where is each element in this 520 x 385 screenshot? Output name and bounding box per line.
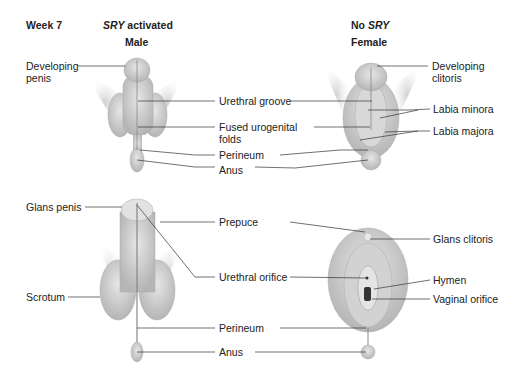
label-perineum-top: Perineum — [219, 149, 264, 161]
female-week7-illustration — [320, 60, 425, 170]
label-hymen: Hymen — [433, 274, 466, 286]
label-anus-bottom: Anus — [219, 346, 243, 358]
activated-text: activated — [124, 19, 172, 31]
male-week7-illustration — [85, 58, 185, 172]
label-fused-urogenital-folds: Fused urogenitalfolds — [219, 121, 297, 145]
label-urethral-orifice: Urethral orifice — [219, 271, 287, 283]
male-title: Male — [125, 36, 148, 48]
female-gene-header: No SRY — [351, 19, 389, 31]
male-gene-header: SRY activated — [103, 19, 173, 31]
no-text: No — [351, 19, 368, 31]
female-title: Female — [351, 36, 387, 48]
label-labia-minora: Labia minora — [433, 103, 494, 115]
label-urethral-groove: Urethral groove — [219, 95, 291, 107]
label-glans-penis: Glans penis — [26, 201, 81, 213]
label-developing-penis: Developingpenis — [26, 60, 79, 84]
label-glans-clitoris: Glans clitoris — [433, 233, 493, 245]
week-label: Week 7 — [26, 19, 62, 31]
female-adult-illustration — [323, 215, 413, 359]
label-labia-majora: Labia majora — [433, 125, 494, 137]
label-prepuce: Prepuce — [219, 216, 258, 228]
male-adult-illustration — [95, 199, 185, 362]
label-developing-clitoris: Developingclitoris — [432, 60, 485, 84]
sry-italic: SRY — [103, 19, 124, 31]
label-scrotum: Scrotum — [26, 291, 65, 303]
label-vaginal-orifice: Vaginal orifice — [433, 293, 498, 305]
label-anus-top: Anus — [219, 164, 243, 176]
label-perineum-bottom: Perineum — [219, 322, 264, 334]
sry-italic: SRY — [368, 19, 389, 31]
